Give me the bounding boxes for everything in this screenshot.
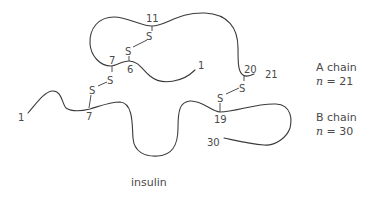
b-chain-legend: B chain n = 30 — [316, 111, 357, 139]
a-chain-label-11: 11 — [146, 13, 159, 24]
b-chain-n-value: 30 — [339, 125, 353, 138]
a-chain-n-value: 21 — [339, 75, 353, 88]
s-atom-a7: S — [107, 75, 113, 86]
s-atom-a6: S — [125, 46, 131, 57]
a-chain-label-21: 21 — [265, 69, 278, 80]
b-chain-backbone — [28, 91, 291, 156]
s-atom-b7: S — [89, 85, 95, 96]
b-chain-n-eq: = — [327, 125, 336, 138]
b-chain-count: n = 30 — [316, 125, 357, 139]
a-chain-n-eq: = — [327, 75, 336, 88]
b-chain-label-19: 19 — [214, 114, 227, 125]
bond-b7-stub — [89, 95, 91, 108]
a-chain-n-symbol: n — [316, 75, 323, 88]
b-chain-n-symbol: n — [316, 125, 323, 138]
bond-a20-b19 — [226, 88, 239, 94]
b-chain-label-7: 7 — [86, 111, 92, 122]
s-atom-b19: S — [217, 93, 223, 104]
a-chain-label-20: 20 — [244, 64, 257, 75]
a-chain-backbone — [90, 13, 254, 82]
a-chain-count: n = 21 — [316, 75, 357, 89]
insulin-structure-svg: S S S S S S 1 6 7 11 20 21 1 7 19 30 — [0, 0, 374, 198]
a-chain-name: A chain — [316, 61, 357, 75]
s-atom-a20: S — [239, 83, 245, 94]
a-chain-legend: A chain n = 21 — [316, 61, 357, 89]
a-chain-label-6: 6 — [127, 64, 133, 75]
a-chain-label-7: 7 — [109, 55, 115, 66]
insulin-diagram: S S S S S S 1 6 7 11 20 21 1 7 19 30 A c… — [0, 0, 374, 198]
bond-a6-a11 — [133, 40, 147, 47]
b-chain-label-1: 1 — [18, 112, 24, 123]
b-chain-label-30: 30 — [207, 137, 220, 148]
bond-a7-b7 — [98, 82, 107, 86]
figure-caption: insulin — [131, 176, 167, 189]
s-atom-a11: S — [146, 31, 152, 42]
b-chain-name: B chain — [316, 111, 357, 125]
a-chain-label-1: 1 — [198, 60, 204, 71]
